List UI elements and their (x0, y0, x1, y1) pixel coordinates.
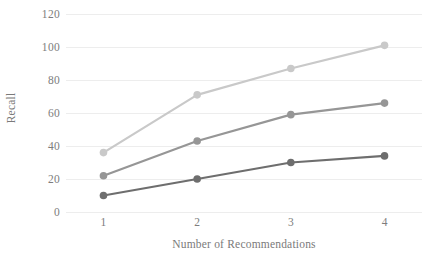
data-point-marker (287, 159, 295, 167)
data-point-marker (381, 152, 389, 160)
data-point-marker (100, 172, 108, 180)
data-point-marker (193, 175, 201, 183)
data-point-marker (100, 192, 108, 200)
data-point-marker (287, 65, 295, 73)
y-axis-title-text: Recall (5, 92, 17, 123)
y-tick-label: 20 (48, 173, 60, 185)
plot-series-svg (66, 14, 422, 212)
y-tick-label: 60 (48, 107, 60, 119)
data-point-marker (193, 91, 201, 99)
y-tick-label: 80 (48, 74, 60, 86)
series-line (103, 45, 384, 152)
series-series-light (100, 42, 389, 157)
series-line (103, 156, 384, 196)
series-series-medium (100, 99, 389, 179)
y-tick-label: 40 (48, 140, 60, 152)
data-point-marker (381, 99, 389, 107)
y-tick-label: 0 (54, 206, 60, 218)
data-point-marker (193, 137, 201, 145)
data-point-marker (100, 149, 108, 157)
line-chart: Recall 020406080100120 1234 Number of Re… (0, 0, 433, 265)
y-axis-tick-labels: 020406080100120 (22, 0, 66, 225)
data-point-marker (287, 111, 295, 119)
x-axis-tick-labels: 1234 (66, 216, 422, 236)
data-point-marker (381, 42, 389, 50)
x-tick-label: 1 (101, 216, 107, 228)
y-tick-label: 100 (42, 41, 60, 53)
series-line (103, 103, 384, 176)
series-series-dark (100, 152, 389, 199)
y-axis-title: Recall (0, 0, 22, 215)
plot-area (66, 14, 422, 212)
y-tick-label: 120 (42, 8, 60, 20)
x-tick-label: 3 (288, 216, 294, 228)
x-axis-title: Number of Recommendations (66, 238, 422, 250)
gridline (66, 212, 422, 213)
x-tick-label: 4 (382, 216, 388, 228)
x-tick-label: 2 (194, 216, 200, 228)
